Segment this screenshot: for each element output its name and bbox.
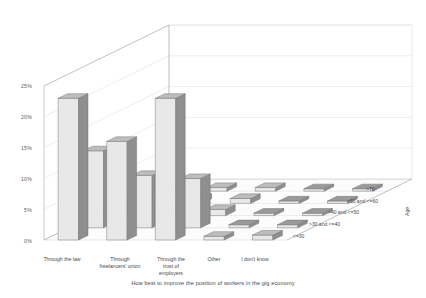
bar-front-face [304,189,324,191]
age-group-label-40-50: >40 and <=50 [328,209,359,215]
category-label-freelancers-union: Through freelancers' union [89,256,151,270]
category-line: Through [89,256,151,263]
bar-front-face [327,201,347,203]
bar-front-face [58,98,78,240]
bar-3d [155,94,185,240]
category-line: I don't know [231,256,279,263]
chart-title: How best to improve the position of work… [0,280,426,286]
bar-front-face [230,198,250,203]
category-line: Other [196,256,232,263]
axis-line [44,25,169,86]
bar-3d [107,137,137,240]
bar-front-face [107,141,127,240]
bar-front-face [279,201,299,203]
age-group-label-over-70: >70 [366,186,374,192]
bar-side-face [201,174,211,228]
y-axis-tick-0: 0% [6,238,32,244]
bar-side-face [127,137,137,240]
category-line: employers [145,270,197,277]
chart-root: 25% 20% 15% 10% 5% 0% Through the law Th… [0,0,426,298]
bar-front-face [302,213,322,215]
bar-front-face [254,213,274,215]
category-line: freelancers' union [89,263,151,270]
category-label-trust-of-employers: Through the trust of employers [145,256,197,278]
bar-front-face [277,225,297,228]
category-label-i-dont-know: I don't know [231,256,279,263]
y-axis-tick-10: 10% [6,176,32,182]
back-wall [169,25,412,179]
y-axis-tick-15: 15% [6,145,32,151]
category-line: trust of [145,263,197,270]
bar-3d [58,94,88,240]
age-group-label-30-40: >30 and <=40 [309,221,340,227]
bar-front-face [255,188,275,192]
bar-front-face [155,98,175,240]
bar-front-face [229,225,249,228]
bar-front-face [204,236,224,240]
age-axis-title: Age [404,207,410,216]
bar-side-face [79,94,89,240]
category-line: Through the law [33,256,91,263]
y-axis-tick-20: 20% [6,114,32,120]
age-group-label-under-30: <=30 [293,233,304,239]
age-group-label-50-60: >50 and <=60 [347,198,378,204]
category-label-through-the-law: Through the law [33,256,91,263]
bar-chart-3d [0,0,426,298]
category-label-other: Other [196,256,232,263]
y-axis-tick-5: 5% [6,207,32,213]
bar-side-face [176,94,186,240]
bar-front-face [252,235,272,240]
y-axis-tick-25: 25% [6,83,32,89]
category-line: Through the [145,256,197,263]
